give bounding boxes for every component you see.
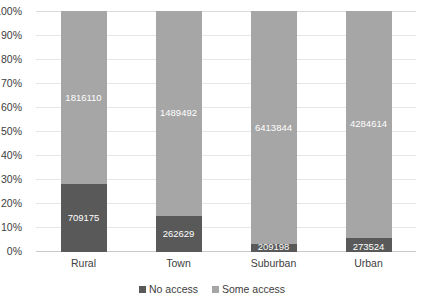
y-axis-tick-label: 0%: [0, 246, 22, 257]
stacked-bar-chart: 100%90%80%70%60%50%40%30%20%10%0% 181611…: [0, 0, 424, 301]
legend-item[interactable]: No access: [139, 283, 198, 295]
y-axis-tick-label: 100%: [0, 6, 22, 17]
x-axis-labels: RuralTownSuburbanUrban: [36, 256, 416, 272]
bar-value-label: 273524: [346, 242, 392, 252]
plot-area: 100%90%80%70%60%50%40%30%20%10%0% 181611…: [36, 11, 416, 252]
bar-segment-no-access[interactable]: 262629: [156, 216, 202, 252]
bar-segment-some-access[interactable]: 1489492: [156, 11, 202, 216]
legend-label: No access: [149, 283, 198, 295]
y-axis-tick-label: 20%: [0, 198, 22, 209]
x-axis-category-label: Town: [131, 256, 226, 272]
y-axis-tick-label: 80%: [0, 54, 22, 65]
bar-slot: 1489492262629: [131, 11, 226, 252]
y-axis-tick-label: 30%: [0, 174, 22, 185]
bar-value-label: 209198: [251, 242, 297, 252]
bar-segment-no-access[interactable]: 209198: [251, 244, 297, 252]
chart-legend: No accessSome access: [0, 283, 424, 295]
legend-swatch-icon: [212, 286, 219, 293]
legend-item[interactable]: Some access: [212, 283, 285, 295]
bar-segment-some-access[interactable]: 1816110: [61, 11, 107, 184]
bar-segment-some-access[interactable]: 6413844: [251, 11, 297, 244]
bar-value-label: 1816110: [61, 93, 107, 103]
x-axis-category-label: Rural: [36, 256, 131, 272]
bar-value-label: 262629: [156, 229, 202, 239]
bar-value-label: 709175: [61, 213, 107, 223]
bar-stack[interactable]: 1489492262629: [156, 11, 202, 252]
bar-segment-some-access[interactable]: 4284614: [346, 11, 392, 238]
bar-segment-no-access[interactable]: 709175: [61, 184, 107, 252]
bar-slot: 1816110709175: [36, 11, 131, 252]
x-axis-category-label: Urban: [321, 256, 416, 272]
y-axis-tick-label: 10%: [0, 222, 22, 233]
y-axis-tick-label: 70%: [0, 78, 22, 89]
bar-stack[interactable]: 4284614273524: [346, 11, 392, 252]
chart-title-cropped: [0, 0, 424, 5]
bar-series-group: 1816110709175148949226262964138442091984…: [36, 11, 416, 252]
legend-swatch-icon: [139, 286, 146, 293]
bar-stack[interactable]: 6413844209198: [251, 11, 297, 252]
legend-label: Some access: [222, 283, 285, 295]
bar-slot: 4284614273524: [321, 11, 416, 252]
bar-value-label: 1489492: [156, 108, 202, 118]
y-axis-tick-label: 40%: [0, 150, 22, 161]
x-axis-category-label: Suburban: [226, 256, 321, 272]
y-axis-tick-label: 90%: [0, 30, 22, 41]
bar-stack[interactable]: 1816110709175: [61, 11, 107, 252]
y-axis-tick-label: 60%: [0, 102, 22, 113]
bar-value-label: 4284614: [346, 119, 392, 129]
bar-slot: 6413844209198: [226, 11, 321, 252]
bar-value-label: 6413844: [251, 123, 297, 133]
bar-segment-no-access[interactable]: 273524: [346, 238, 392, 252]
y-axis-tick-label: 50%: [0, 126, 22, 137]
